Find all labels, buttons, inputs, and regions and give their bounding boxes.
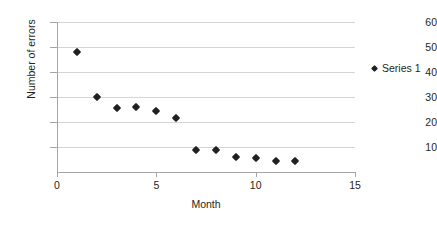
gridline — [57, 47, 355, 48]
data-point — [152, 107, 160, 115]
data-point — [232, 153, 240, 161]
y-axis-tick — [50, 97, 57, 98]
scatter-chart: 102030405060 051015 Number of errors Mon… — [0, 0, 437, 229]
y-axis-title: Number of errors — [25, 0, 37, 119]
data-point — [132, 103, 140, 111]
chart-legend: Series 1 — [372, 63, 421, 74]
data-point — [73, 48, 81, 56]
x-axis-tick — [156, 172, 157, 177]
gridline — [57, 122, 355, 123]
data-point — [271, 157, 279, 165]
y-axis-tick — [50, 122, 57, 123]
plot-area — [57, 22, 355, 172]
legend-entry-label: Series 1 — [382, 63, 421, 74]
gridline — [57, 72, 355, 73]
y-axis-tick-label: 50 — [393, 42, 437, 53]
x-axis-tick-label: 15 — [340, 180, 370, 191]
gridline — [57, 22, 355, 23]
x-axis-tick — [256, 172, 257, 177]
legend-diamond-icon — [371, 65, 378, 72]
y-axis-tick — [50, 72, 57, 73]
y-axis-tick-label: 20 — [393, 117, 437, 128]
x-axis-title: Month — [146, 198, 266, 210]
y-axis-tick-label: 10 — [393, 142, 437, 153]
x-axis-tick-label: 5 — [141, 180, 171, 191]
x-axis-tick — [57, 172, 58, 177]
x-axis-tick-label: 0 — [42, 180, 72, 191]
y-axis-tick-label: 30 — [393, 92, 437, 103]
y-axis-tick — [50, 147, 57, 148]
data-point — [92, 93, 100, 101]
x-axis-tick — [355, 172, 356, 177]
gridline — [57, 147, 355, 148]
y-axis-tick — [50, 47, 57, 48]
data-point — [251, 154, 259, 162]
y-axis-tick-label: 60 — [393, 17, 437, 28]
gridline — [57, 97, 355, 98]
y-axis-line — [57, 22, 58, 172]
data-point — [291, 157, 299, 165]
y-axis-tick — [50, 22, 57, 23]
x-axis-tick-label: 10 — [241, 180, 271, 191]
data-point — [112, 104, 120, 112]
x-axis-line — [57, 172, 355, 173]
